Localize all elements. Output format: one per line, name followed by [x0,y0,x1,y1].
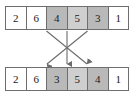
bottom-cell-4: 4 [88,68,109,90]
array-row-after: 2 6 3 5 4 1 [5,67,129,91]
bottom-cell-2: 3 [47,68,68,90]
top-cell-5: 1 [109,7,129,29]
top-cell-0: 2 [6,7,27,29]
bottom-cell-0: 2 [6,68,27,90]
array-row-before: 2 6 4 5 3 1 [5,6,129,30]
arrow-index4-to-index2 [47,31,88,64]
bottom-cell-1: 6 [27,68,48,90]
top-cell-4: 3 [88,7,109,29]
arrow-index2-to-index4 [47,31,88,64]
top-cell-3: 5 [68,7,89,29]
bottom-cell-5: 1 [109,68,129,90]
top-cell-1: 6 [27,7,48,29]
array-swap-diagram: 2 6 4 5 3 1 2 6 3 5 4 1 [0,0,135,97]
bottom-cell-3: 5 [68,68,89,90]
top-cell-2: 4 [47,7,68,29]
